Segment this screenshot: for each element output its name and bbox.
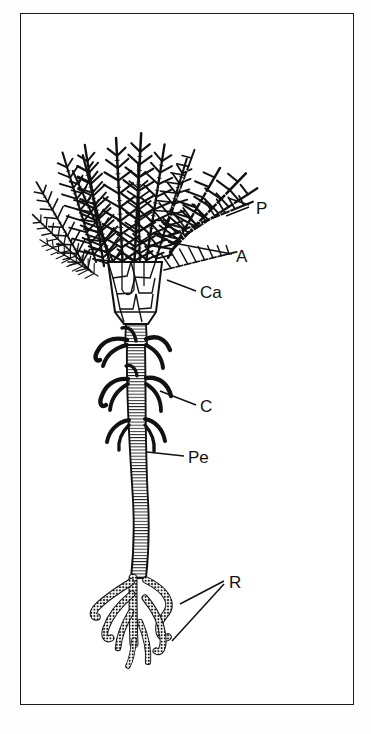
figure-page: P A Ca C Pe R <box>0 0 371 734</box>
leader-C <box>160 391 196 405</box>
rootlets-group <box>93 578 169 666</box>
leader-Pe <box>147 452 184 456</box>
leader-A <box>168 242 232 254</box>
crinoid-illustration: P A Ca C Pe R <box>0 0 371 734</box>
leader-R-a <box>180 581 224 604</box>
label-Pe: Pe <box>188 448 209 467</box>
stalk-group <box>125 324 149 578</box>
label-A: A <box>236 247 248 266</box>
leader-R-b <box>172 584 224 641</box>
label-Ca: Ca <box>200 283 222 302</box>
label-R: R <box>229 573 241 592</box>
labels-group: P A Ca C Pe R <box>188 199 267 592</box>
label-C: C <box>200 397 212 416</box>
leader-Ca <box>167 280 196 291</box>
calyx-group <box>108 262 162 324</box>
label-P: P <box>256 199 267 218</box>
